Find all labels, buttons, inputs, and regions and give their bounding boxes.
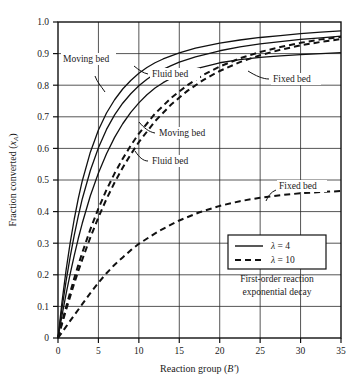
curve-label-fluid-bed-dashed: Fluid bed — [152, 156, 188, 166]
annotation-line-2: exponential decay — [243, 287, 312, 297]
x-tick-label: 30 — [296, 346, 306, 356]
x-tick-label: 35 — [336, 346, 346, 356]
x-tick-label: 15 — [175, 346, 185, 356]
curve-label-fluid-bed-solid: Fluid bed — [152, 69, 188, 79]
x-tick-label: 20 — [215, 346, 225, 356]
curve-label-moving-bed-dashed: Moving bed — [159, 128, 205, 138]
curve-labels: Moving bedFluid bedFixed bedMoving bedFl… — [61, 53, 327, 192]
x-tick-label: 10 — [134, 346, 144, 356]
curve-label-moving-bed-solid: Moving bed — [63, 54, 109, 64]
legend-label-2: λ = 10 — [270, 255, 295, 265]
x-tick-label: 5 — [96, 346, 101, 356]
leader-fluid-bed-dashed — [135, 151, 148, 161]
curve-label-fixed-bed-dashed: Fixed bed — [279, 181, 317, 191]
x-tick-label: 25 — [255, 346, 265, 356]
y-tick-labels: 00.10.20.30.40.50.60.70.80.91.0 — [37, 17, 49, 343]
y-tick-label: 0.2 — [37, 270, 49, 280]
y-tick-label: 0.4 — [37, 207, 49, 217]
reaction-group-conversion-chart: 0510152025303500.10.20.30.40.50.60.70.80… — [0, 0, 362, 390]
legend-label-1: λ = 4 — [270, 241, 290, 251]
y-tick-label: 0.7 — [37, 112, 49, 122]
x-axis-title: Reaction group (B′) — [160, 363, 239, 375]
x-tick-labels: 05101520253035 — [56, 346, 346, 356]
leader-fixed-bed-solid — [248, 71, 269, 79]
y-tick-label: 0.8 — [37, 81, 49, 91]
y-tick-label: 0.5 — [37, 175, 49, 185]
annotation-line-1: First-order reaction — [240, 274, 314, 284]
y-tick-label: 0.3 — [37, 239, 49, 249]
leader-moving-bed-solid — [95, 76, 105, 92]
curve-label-fixed-bed-solid: Fixed bed — [273, 74, 311, 84]
y-axis-title: Fraction converted (xA) — [7, 133, 20, 226]
chart-figure: 0510152025303500.10.20.30.40.50.60.70.80… — [0, 0, 362, 390]
y-tick-label: 0.6 — [37, 144, 49, 154]
y-tick-label: 0 — [44, 333, 49, 343]
leader-fluid-bed-solid — [134, 66, 148, 74]
y-tick-label: 0.9 — [37, 49, 49, 59]
annotation: First-order reactionexponential decay — [240, 274, 314, 297]
y-tick-label: 1.0 — [37, 17, 49, 27]
x-tick-label: 0 — [56, 346, 61, 356]
y-tick-label: 0.1 — [37, 302, 49, 312]
legend: λ = 4λ = 10 — [228, 235, 326, 269]
